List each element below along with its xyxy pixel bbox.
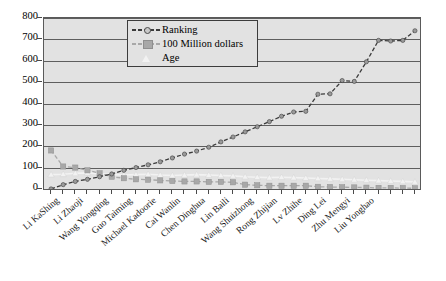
data-point: [291, 183, 296, 188]
y-tick-label: 700: [22, 32, 38, 43]
data-point: [170, 178, 175, 183]
data-point: [303, 183, 308, 188]
y-tick-label: 200: [22, 139, 38, 150]
data-point: [267, 183, 272, 188]
data-point: [231, 135, 235, 139]
data-point: [61, 183, 65, 187]
data-point: [121, 176, 126, 181]
data-point: [364, 60, 368, 64]
data-point: [267, 120, 271, 124]
y-tick-label: 400: [22, 97, 38, 108]
y-tick-label: 100: [22, 161, 38, 172]
data-point: [219, 140, 223, 144]
legend-item-age: Age: [128, 51, 257, 65]
data-point: [97, 175, 101, 179]
data-point: [73, 179, 77, 183]
data-point: [133, 177, 138, 182]
legend-swatch-ranking: [132, 24, 162, 36]
data-point: [243, 130, 247, 134]
y-tick-mark: [37, 38, 42, 39]
data-point: [304, 109, 308, 113]
data-point: [279, 183, 284, 188]
y-tick-mark: [37, 124, 42, 125]
data-point: [413, 29, 417, 33]
data-point: [182, 179, 187, 184]
legend-swatch-age: [132, 52, 162, 64]
data-point: [170, 156, 174, 160]
chart-figure: 0100200300400500600700800 Li KaShingLi Z…: [0, 0, 446, 281]
legend-item-dollars: 100 Million dollars: [128, 37, 257, 51]
data-point: [292, 110, 296, 114]
legend-label-dollars: 100 Million dollars: [162, 39, 243, 50]
data-point: [195, 149, 199, 153]
data-point: [255, 125, 259, 129]
data-point: [279, 114, 283, 118]
data-point: [352, 79, 356, 83]
y-tick-mark: [37, 103, 42, 104]
data-point: [230, 180, 235, 185]
data-point: [85, 168, 90, 173]
data-point: [243, 182, 248, 187]
y-tick-mark: [37, 81, 42, 82]
data-point: [48, 148, 53, 153]
legend-marker: [142, 55, 150, 62]
data-point: [389, 39, 393, 43]
y-tick-label: 800: [22, 11, 38, 22]
legend-marker: [144, 27, 151, 34]
y-tick-mark: [37, 167, 42, 168]
data-point: [206, 179, 211, 184]
data-point: [110, 172, 114, 176]
data-point: [85, 177, 89, 181]
data-point: [315, 184, 320, 189]
data-point: [328, 92, 332, 96]
data-point: [145, 177, 150, 182]
legend-label-age: Age: [162, 53, 180, 64]
y-tick-label: 500: [22, 75, 38, 86]
y-tick-mark: [37, 60, 42, 61]
data-point: [73, 165, 78, 170]
data-point: [158, 178, 163, 183]
y-axis: 0100200300400500600700800: [0, 0, 43, 190]
y-tick-label: 600: [22, 54, 38, 65]
data-point: [134, 165, 138, 169]
y-tick-mark: [37, 17, 42, 18]
legend-label-ranking: Ranking: [162, 25, 198, 36]
y-tick-label: 300: [22, 118, 38, 129]
data-point: [207, 145, 211, 149]
data-point: [218, 179, 223, 184]
data-point: [182, 152, 186, 156]
legend-marker: [143, 40, 153, 49]
data-point: [316, 92, 320, 96]
y-tick-mark: [37, 145, 42, 146]
legend-swatch-dollars: [132, 38, 162, 50]
chart-legend: Ranking 100 Million dollars Age: [127, 20, 258, 67]
data-point: [255, 183, 260, 188]
data-point: [401, 38, 405, 42]
x-axis-labels: Li KaShingLi ZhaojiWang YongqingGuo Taim…: [0, 190, 446, 281]
data-point: [327, 184, 332, 189]
series-100-million-dollars: [48, 148, 417, 190]
data-point: [194, 179, 199, 184]
data-point: [61, 164, 66, 169]
y-tick-mark: [37, 188, 42, 189]
data-point: [158, 160, 162, 164]
data-point: [146, 163, 150, 167]
legend-item-ranking: Ranking: [128, 23, 257, 37]
data-point: [340, 78, 344, 82]
data-point: [122, 168, 126, 172]
data-point: [376, 38, 380, 42]
